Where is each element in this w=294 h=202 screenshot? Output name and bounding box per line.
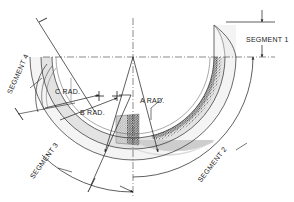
granular-block-light xyxy=(116,115,127,144)
section-diagram-svg: SEGMENT 1 SEGMENT 2 SEGMENT 3 SEGMENT 4 … xyxy=(0,0,294,202)
segment2-leader xyxy=(236,143,247,150)
label-segment-3: SEGMENT 3 xyxy=(29,141,60,180)
centerlines-group xyxy=(43,18,275,196)
granular-texture-group xyxy=(116,57,222,145)
label-c-rad: C RAD. xyxy=(55,88,80,95)
label-a-rad: A RAD. xyxy=(140,97,164,104)
b-rad-arrow-terminator xyxy=(88,178,95,192)
label-b-rad: B RAD. xyxy=(80,109,105,116)
label-segment-1: SEGMENT 1 xyxy=(246,36,289,43)
segment3-dim-arc xyxy=(42,155,133,192)
center-point-markers xyxy=(95,91,122,101)
cad-drawing-canvas: SEGMENT 1 SEGMENT 2 SEGMENT 3 SEGMENT 4 … xyxy=(0,0,294,202)
label-segment-4: SEGMENT 4 xyxy=(6,53,30,95)
segment3-dim-arrow xyxy=(120,186,133,192)
label-segment-2: SEGMENT 2 xyxy=(196,146,228,184)
segment4-tick xyxy=(39,18,47,22)
